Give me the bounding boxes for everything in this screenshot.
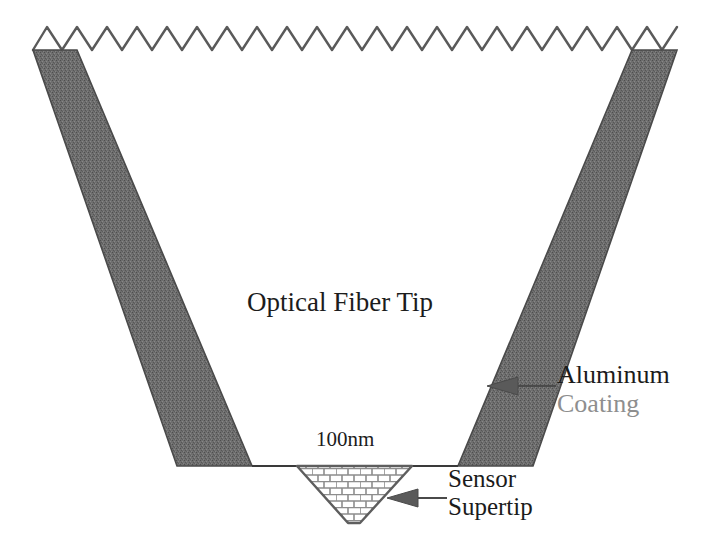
sensor-supertip-arrow — [387, 489, 447, 507]
left-coating-band — [33, 50, 252, 466]
sawtooth-fracture-line — [33, 27, 677, 50]
label-coating: Coating — [557, 390, 639, 417]
fiber-tip-diagram — [0, 0, 708, 557]
label-supertip: Supertip — [448, 494, 533, 520]
label-aluminum: Aluminum — [557, 361, 670, 388]
figure-root: Optical Fiber Tip 100nm Aluminum Coating… — [0, 0, 708, 557]
label-sensor: Sensor — [448, 466, 516, 492]
label-scale-100nm: 100nm — [316, 428, 374, 450]
label-optical-fiber-tip: Optical Fiber Tip — [247, 288, 433, 316]
